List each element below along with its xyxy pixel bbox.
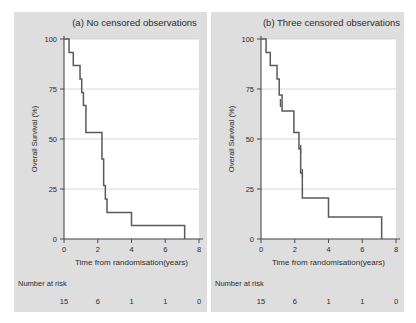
y-axis-title-a: Overall Survival (%) xyxy=(30,105,39,172)
number-at-risk-value-a-2: 1 xyxy=(129,297,133,306)
y-tick-label-a-0: 0 xyxy=(53,235,57,244)
y-tick-label-a-25: 25 xyxy=(49,185,57,194)
y-tick-label-b-75: 75 xyxy=(246,85,254,94)
x-tick-label-a-8: 8 xyxy=(197,245,201,254)
y-tick-label-a-100: 100 xyxy=(44,35,57,44)
x-tick-label-a-2: 2 xyxy=(96,245,100,254)
x-tick-label-a-4: 4 xyxy=(129,245,133,254)
x-tick-label-b-4: 4 xyxy=(326,245,330,254)
number-at-risk-label-b: Number at risk xyxy=(215,279,264,288)
panel-title-a: (a) No censored observations xyxy=(72,17,197,28)
x-axis-title-b: Time from randomisation(years) xyxy=(272,258,385,267)
number-at-risk-value-b-1: 6 xyxy=(293,297,297,306)
y-tick-label-b-0: 0 xyxy=(250,235,254,244)
x-axis-title-a: Time from randomisation(years) xyxy=(75,258,188,267)
kaplan-meier-figure: (a) No censored observations0255075100Ov… xyxy=(0,0,416,323)
x-tick-label-a-0: 0 xyxy=(62,245,66,254)
number-at-risk-value-a-3: 1 xyxy=(163,297,167,306)
number-at-risk-value-b-0: 15 xyxy=(257,297,265,306)
x-tick-label-b-6: 6 xyxy=(360,245,364,254)
x-tick-label-b-0: 0 xyxy=(259,245,263,254)
y-tick-label-b-25: 25 xyxy=(246,185,254,194)
number-at-risk-value-b-3: 1 xyxy=(360,297,364,306)
x-tick-label-a-6: 6 xyxy=(163,245,167,254)
x-tick-label-b-2: 2 xyxy=(293,245,297,254)
number-at-risk-label-a: Number at risk xyxy=(18,279,67,288)
x-tick-label-b-8: 8 xyxy=(394,245,398,254)
y-tick-label-a-50: 50 xyxy=(49,135,57,144)
number-at-risk-value-a-4: 0 xyxy=(197,297,201,306)
y-axis-title-b: Overall Survival (%) xyxy=(227,105,236,172)
panel-title-b: (b) Three censored observations xyxy=(263,17,400,28)
y-tick-label-a-75: 75 xyxy=(49,85,57,94)
number-at-risk-value-a-1: 6 xyxy=(96,297,100,306)
chart-canvas: (a) No censored observations0255075100Ov… xyxy=(0,0,416,323)
y-tick-label-b-50: 50 xyxy=(246,135,254,144)
y-tick-label-b-100: 100 xyxy=(241,35,254,44)
number-at-risk-value-b-2: 1 xyxy=(326,297,330,306)
number-at-risk-value-a-0: 15 xyxy=(60,297,68,306)
number-at-risk-value-b-4: 0 xyxy=(394,297,398,306)
